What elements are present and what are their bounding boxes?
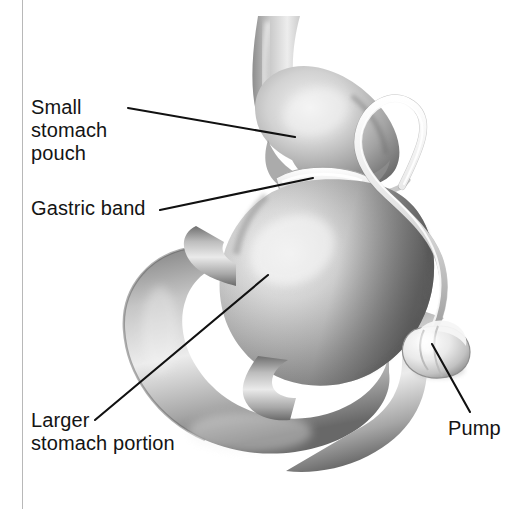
left-frame-rule [22,0,23,509]
label-pump: Pump [448,417,501,440]
label-small-stomach-pouch: Small stomach pouch [31,96,107,165]
label-gastric-band: Gastric band [31,197,146,220]
gastric-band-figure: Small stomach pouch Gastric band Larger … [0,0,529,509]
larger-stomach-portion [184,179,434,420]
label-larger-stomach-portion: Larger stomach portion [31,409,175,455]
